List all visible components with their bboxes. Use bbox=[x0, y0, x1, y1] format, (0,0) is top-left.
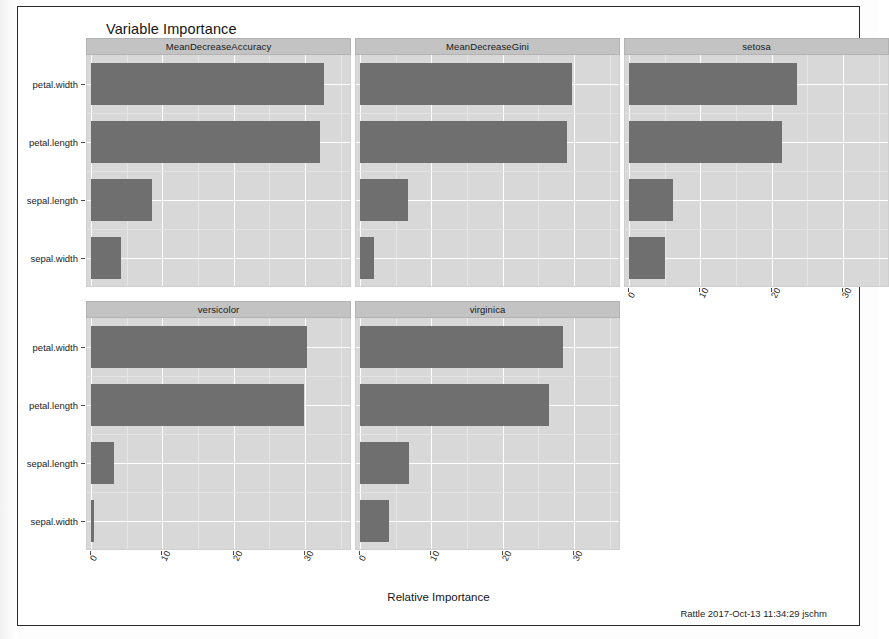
bar bbox=[360, 121, 567, 163]
gridline-horizontal-minor bbox=[87, 229, 350, 230]
y-axis-tick bbox=[81, 84, 85, 85]
gridline-horizontal-minor bbox=[356, 229, 619, 230]
y-axis-tick-label: sepal.width bbox=[18, 253, 78, 264]
y-axis-tick bbox=[81, 463, 85, 464]
panel-plot-area bbox=[86, 318, 351, 550]
y-axis-tick-label: sepal.length bbox=[18, 195, 78, 206]
y-axis-tick-label: sepal.width bbox=[18, 516, 78, 527]
plot-canvas: Variable Importance MeanDecreaseAccuracy… bbox=[17, 6, 860, 626]
bar bbox=[91, 121, 320, 163]
panel-versicolor: versicolor bbox=[86, 301, 351, 550]
panel-virginica: virginica bbox=[355, 301, 620, 550]
panel-strip-label: MeanDecreaseGini bbox=[355, 38, 620, 55]
x-axis-tick-label: 10 bbox=[159, 549, 173, 563]
bar bbox=[91, 237, 121, 279]
gridline-horizontal bbox=[356, 258, 619, 259]
bar bbox=[91, 442, 114, 484]
panel-plot-area bbox=[355, 55, 620, 287]
gridline-horizontal-minor bbox=[87, 376, 350, 377]
y-axis-tick-label: petal.width bbox=[18, 79, 78, 90]
panel-plot-area bbox=[86, 55, 351, 287]
bar bbox=[91, 63, 324, 105]
y-axis-tick bbox=[81, 521, 85, 522]
panel-strip-label: virginica bbox=[355, 301, 620, 318]
footer-timestamp: Rattle 2017-Oct-13 11:34:29 jschm bbox=[680, 608, 827, 619]
panel-setosa: setosa bbox=[624, 38, 889, 287]
bar bbox=[360, 384, 549, 426]
x-axis-tick-label: 30 bbox=[840, 286, 854, 300]
y-axis-tick bbox=[81, 347, 85, 348]
bar bbox=[629, 63, 797, 105]
gridline-horizontal-minor bbox=[87, 434, 350, 435]
gridline-horizontal-minor bbox=[87, 113, 350, 114]
panel-meandecreasegini: MeanDecreaseGini bbox=[355, 38, 620, 287]
gridline-horizontal bbox=[87, 463, 350, 464]
gridline-horizontal-minor bbox=[625, 171, 888, 172]
y-axis-tick bbox=[81, 258, 85, 259]
x-axis-tick-label: 10 bbox=[697, 286, 711, 300]
gridline-horizontal bbox=[87, 521, 350, 522]
y-axis-tick-label: petal.width bbox=[18, 342, 78, 353]
page-title: Variable Importance bbox=[106, 21, 237, 37]
bar bbox=[360, 179, 408, 221]
y-axis-tick bbox=[81, 142, 85, 143]
y-axis-tick-label: petal.length bbox=[18, 400, 78, 411]
bar bbox=[360, 237, 374, 279]
y-axis-tick-label: sepal.length bbox=[18, 458, 78, 469]
gridline-horizontal-minor bbox=[356, 171, 619, 172]
y-axis-tick bbox=[81, 200, 85, 201]
gridline-horizontal-minor bbox=[356, 113, 619, 114]
panel-plot-area bbox=[624, 55, 889, 287]
x-axis-tick-label: 30 bbox=[571, 549, 585, 563]
bar bbox=[360, 326, 563, 368]
gridline-horizontal bbox=[87, 258, 350, 259]
x-axis-tick-label: 0 bbox=[626, 291, 637, 300]
panel-strip-label: MeanDecreaseAccuracy bbox=[86, 38, 351, 55]
bar bbox=[91, 326, 307, 368]
gridline-horizontal-minor bbox=[87, 492, 350, 493]
bar bbox=[91, 500, 94, 542]
panel-meandecreaseaccuracy: MeanDecreaseAccuracy bbox=[86, 38, 351, 287]
bar bbox=[360, 63, 572, 105]
gridline-horizontal-minor bbox=[87, 171, 350, 172]
x-axis-tick-label: 10 bbox=[428, 549, 442, 563]
gridline-horizontal-minor bbox=[356, 492, 619, 493]
panel-strip-label: versicolor bbox=[86, 301, 351, 318]
y-axis-tick-label: petal.length bbox=[18, 137, 78, 148]
gridline-horizontal-minor bbox=[625, 229, 888, 230]
bar bbox=[629, 121, 782, 163]
bar bbox=[91, 179, 152, 221]
gridline-horizontal-minor bbox=[625, 113, 888, 114]
bar bbox=[91, 384, 304, 426]
y-axis-tick bbox=[81, 405, 85, 406]
page-left-edge bbox=[0, 0, 17, 639]
gridline-horizontal-minor bbox=[356, 434, 619, 435]
x-axis-tick-label: 30 bbox=[302, 549, 316, 563]
bar bbox=[360, 500, 389, 542]
bar bbox=[629, 179, 673, 221]
x-axis-tick-label: 0 bbox=[88, 554, 99, 563]
x-axis-tick-label: 0 bbox=[357, 554, 368, 563]
x-axis-title: Relative Importance bbox=[18, 591, 859, 603]
panel-strip-label: setosa bbox=[624, 38, 889, 55]
gridline-horizontal-minor bbox=[356, 376, 619, 377]
gridline-horizontal bbox=[356, 521, 619, 522]
bar bbox=[629, 237, 665, 279]
panel-plot-area bbox=[355, 318, 620, 550]
bar bbox=[360, 442, 409, 484]
